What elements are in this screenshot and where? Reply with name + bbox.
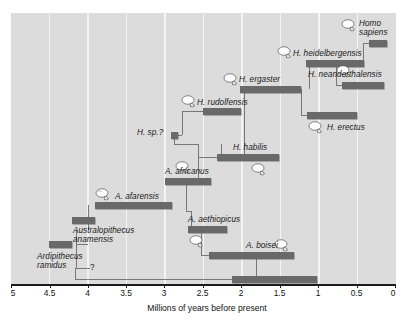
label-homo-sapiens: Homo sapiens bbox=[359, 19, 388, 38]
bar-a-afarensis bbox=[95, 202, 172, 209]
label-root-question-mark: ? bbox=[90, 263, 95, 272]
skull-icon-h-ergaster bbox=[223, 73, 240, 86]
bar-h-erectus bbox=[307, 112, 357, 119]
x-tick-label-1: 1 bbox=[316, 288, 321, 298]
skull-icon-a-afarensis bbox=[95, 188, 112, 201]
label-a-boisei: A. boisei bbox=[246, 241, 278, 250]
bar-homo-sapiens bbox=[369, 40, 387, 47]
label-h-neanderthalensis: H. neanderthalensis bbox=[308, 70, 382, 79]
label-a-afarensis: A. afarensis bbox=[115, 192, 159, 201]
x-tick-label-4.5: 4.5 bbox=[44, 288, 56, 298]
bar-h-heidelbergensis bbox=[306, 60, 364, 67]
skull-icon-a-aethiopicus bbox=[189, 235, 206, 248]
x-tick-label-4: 4 bbox=[85, 288, 90, 298]
bar-ardipithecus-ramidus bbox=[49, 241, 72, 248]
x-axis-title: Millions of years before present bbox=[0, 303, 414, 313]
label-a-aethiopicus: A. aethiopicus bbox=[188, 215, 240, 224]
x-tick-label-3.5: 3.5 bbox=[120, 288, 132, 298]
x-tick-label-0: 0 bbox=[391, 288, 396, 298]
bar-h-rudolfensis bbox=[203, 108, 241, 115]
connector-ergaster-to-erectus bbox=[301, 89, 302, 115]
x-tick-label-5: 5 bbox=[11, 288, 16, 298]
phylogenetic-tree-chart: Ardipithecus ramidus Australopithecus an… bbox=[0, 0, 414, 320]
connector-to-rudolfensis bbox=[182, 111, 183, 135]
connector-boisei-stem bbox=[201, 255, 209, 256]
x-tick-label-2: 2 bbox=[239, 288, 244, 298]
bar-a-robustus bbox=[232, 276, 317, 283]
label-h-ergaster: H. ergaster bbox=[239, 75, 280, 84]
bar-h-sp-unknown bbox=[171, 132, 178, 139]
bar-a-aethiopicus bbox=[188, 226, 227, 233]
x-tick-label-2.5: 2.5 bbox=[197, 288, 209, 298]
plot-area: Ardipithecus ramidus Australopithecus an… bbox=[11, 13, 396, 284]
label-h-rudolfensis: H. rudolfensis bbox=[197, 98, 248, 107]
skull-icon-h-habilis bbox=[251, 163, 268, 176]
skull-icon-homo-sapiens bbox=[341, 19, 358, 32]
label-h-erectus: H. erectus bbox=[327, 123, 365, 132]
x-tick-label-3: 3 bbox=[162, 288, 167, 298]
label-h-habilis: H. habilis bbox=[233, 143, 267, 152]
bar-a-boisei bbox=[209, 252, 294, 259]
gridline-3 bbox=[164, 13, 166, 284]
bar-h-habilis bbox=[217, 154, 279, 161]
bar-h-ergaster bbox=[240, 86, 301, 93]
connector-homo-base bbox=[174, 144, 198, 145]
label-a-africanus: A. africanus bbox=[165, 167, 209, 176]
skull-icon-h-rudolfensis bbox=[181, 95, 198, 108]
x-tick-label-0.5: 0.5 bbox=[351, 288, 363, 298]
bar-a-africanus bbox=[165, 178, 211, 185]
skull-icon-h-erectus bbox=[308, 121, 325, 134]
label-ardipithecus-ramidus: Ardipithecus ramidus bbox=[37, 252, 83, 271]
bar-h-neanderthalensis bbox=[342, 82, 384, 89]
label-australopithecus-anamensis: Australopithecus anamensis bbox=[73, 226, 134, 245]
connector-afarensis-split bbox=[186, 181, 187, 211]
skull-icon-h-heidelbergensis bbox=[277, 46, 294, 59]
label-h-heidelbergensis: H. heidelbergensis bbox=[293, 49, 362, 58]
label-h-sp-unknown: H. sp.? bbox=[137, 128, 163, 137]
connector-robustus-base bbox=[75, 279, 256, 280]
x-tick-label-1.5: 1.5 bbox=[274, 288, 286, 298]
bar-australopithecus-anamensis bbox=[72, 217, 95, 224]
